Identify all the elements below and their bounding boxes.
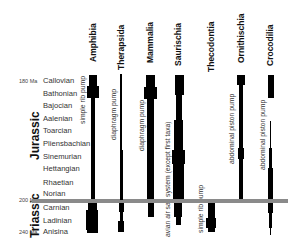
- header-saurischia: Saurischia: [173, 23, 183, 66]
- stage-hettangian: Hettangian: [43, 164, 80, 173]
- age-240: 240 Ma: [19, 229, 37, 235]
- period-jurassic: Jurassic: [28, 111, 42, 160]
- triassic-jurassic-boundary: [32, 199, 288, 203]
- stage-carnian: Carnian: [43, 203, 70, 212]
- stage-bajocian: Bajocian: [43, 101, 72, 110]
- note-ornithischia: abdominal piston pump: [228, 94, 235, 164]
- header-thecodontia: Thecodontia: [206, 21, 216, 72]
- stage-aalenian: Aalenian: [43, 114, 73, 123]
- age-180: 180 Ma: [19, 78, 37, 84]
- stage-pliensbachian: Pliensbachian: [43, 139, 90, 148]
- stage-ladinian: Ladinian: [43, 216, 72, 225]
- stage-sinemurian: Sinemurian: [43, 152, 81, 161]
- note-therapsida: diaphragm pump: [110, 89, 117, 140]
- header-crocodilia: Crocodilia: [265, 24, 275, 66]
- stage-bathonian: Bathonian: [43, 89, 77, 98]
- stage-toarcian: Toarcian: [43, 126, 72, 135]
- note-thecodontia: simple rib pump: [197, 185, 204, 233]
- note-amphibia: simple rib pump: [79, 76, 86, 124]
- note-saurischia: avian air sac system (except first taxa): [164, 121, 171, 237]
- header-amphibia: Amphibia: [88, 23, 98, 62]
- stage-anisina: Anisina: [43, 227, 68, 236]
- header-therapsida: Therapsida: [116, 25, 126, 70]
- note-mammalia: diaphragm pump: [138, 100, 145, 151]
- stage-callovian: Callovian: [43, 76, 74, 85]
- header-ornithischia: Ornithischia: [236, 13, 246, 63]
- header-mammalia: Mammalia: [145, 22, 155, 63]
- stage-norian: Norian: [43, 189, 65, 198]
- note-crocodilia: abdominal piston pump: [259, 100, 266, 170]
- stage-rhaetian: Rhaetian: [43, 178, 73, 187]
